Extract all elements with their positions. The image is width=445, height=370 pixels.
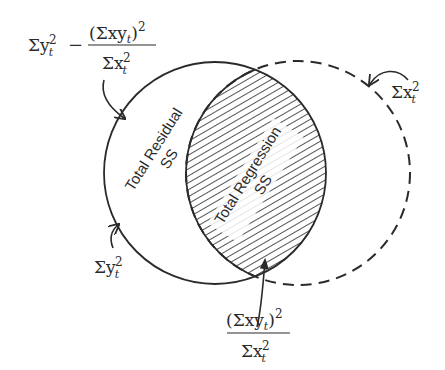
residual-arrow: [103, 80, 124, 118]
svg-text:Σyt2: Σyt2: [94, 255, 123, 281]
svg-text:Σxt2: Σxt2: [241, 339, 270, 365]
venn-diagram: Total Residual SS Total Regression SS Σy…: [0, 0, 445, 370]
residual-formula: Σyt2 − (Σxyt)2 Σxt2: [28, 20, 156, 118]
y-circle-label: Σyt2: [94, 225, 123, 281]
x-circle-label: Σxt2: [370, 71, 420, 106]
svg-text:Σxt2: Σxt2: [391, 80, 420, 106]
residual-formula-sum: Σy: [28, 35, 50, 55]
residual-label-line1: Total Residual: [121, 105, 185, 194]
svg-text:Σxt2: Σxt2: [102, 51, 131, 77]
svg-text:(Σxyt)2: (Σxyt)2: [226, 307, 283, 333]
svg-text:Σyt2: Σyt2: [28, 33, 57, 59]
minus-sign: −: [68, 34, 83, 55]
y-circle-arrow: [111, 225, 118, 248]
regression-region: [186, 61, 410, 285]
svg-text:(Σxyt)2: (Σxyt)2: [89, 20, 146, 46]
